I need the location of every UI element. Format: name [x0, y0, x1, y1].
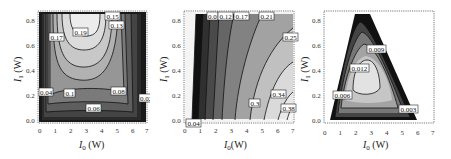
- svg-text:0.009: 0.009: [369, 46, 385, 54]
- svg-text:6: 6: [131, 127, 135, 135]
- svg-text:0.17: 0.17: [51, 34, 64, 42]
- svg-text:0.6: 0.6: [172, 42, 181, 50]
- contour-label-0.12: 0.12: [218, 12, 233, 21]
- y-axis-ticks-3: 0.0 0.2 0.4 0.6 0.8: [312, 17, 321, 125]
- contour-label-0.19: 0.19: [73, 28, 88, 37]
- y-axis-label-1: I1 (W): [12, 57, 25, 83]
- svg-text:0.02: 0.02: [140, 95, 150, 103]
- x-axis-ticks-1: 0 1 2 3 4 5 6 7: [38, 127, 149, 135]
- svg-text:0.4: 0.4: [26, 67, 35, 75]
- svg-text:0.2: 0.2: [312, 92, 321, 100]
- svg-text:0.21: 0.21: [261, 13, 274, 21]
- svg-text:3: 3: [230, 127, 234, 135]
- svg-text:0.17: 0.17: [236, 13, 249, 21]
- svg-text:0.15: 0.15: [107, 13, 120, 21]
- svg-text:0.06: 0.06: [88, 105, 101, 113]
- svg-text:0.0: 0.0: [312, 117, 321, 125]
- svg-text:0.34: 0.34: [273, 91, 286, 99]
- svg-text:2: 2: [69, 127, 73, 135]
- svg-text:4: 4: [385, 129, 389, 137]
- svg-text:6: 6: [416, 129, 420, 137]
- y-axis-label-3: I1 (W): [300, 57, 312, 83]
- svg-text:0.08: 0.08: [113, 88, 126, 96]
- svg-text:0.8: 0.8: [172, 17, 181, 25]
- svg-text:0.4: 0.4: [312, 67, 321, 75]
- svg-text:3: 3: [370, 129, 374, 137]
- contour-panel-3: 0.009 0.012 0.006 0.003 0.0 0.2 0.4 0.6 …: [300, 0, 451, 159]
- svg-text:0.8: 0.8: [26, 17, 35, 25]
- svg-text:0.006: 0.006: [335, 92, 351, 100]
- contour-label-0.34: 0.34: [271, 90, 286, 99]
- svg-text:0.0: 0.0: [172, 117, 181, 125]
- svg-text:2: 2: [214, 127, 218, 135]
- svg-text:1: 1: [54, 127, 58, 135]
- y-axis-ticks-2: 0.0 0.2 0.4 0.6 0.8: [172, 17, 181, 125]
- svg-text:0.6: 0.6: [26, 42, 35, 50]
- x-axis-label-2: I0(W): [223, 139, 247, 152]
- svg-text:5: 5: [261, 127, 265, 135]
- contour-label-0.13: 0.13: [109, 21, 124, 30]
- contour-label-0.04: 0.04: [39, 88, 53, 97]
- contour-label-0.012: 0.012: [350, 64, 369, 73]
- svg-text:1: 1: [339, 129, 343, 137]
- svg-text:0.25: 0.25: [285, 34, 298, 42]
- x-axis-label-1: I0 (W): [78, 139, 104, 152]
- svg-text:0.0: 0.0: [26, 117, 35, 125]
- x-axis-ticks-2: 0 1 2 3 4 5 6 7: [183, 127, 295, 135]
- svg-text:0.003: 0.003: [401, 106, 417, 114]
- svg-text:0.012: 0.012: [352, 65, 368, 73]
- x-axis-ticks-3: 0 1 2 3 4 5 6 7: [323, 129, 435, 137]
- svg-text:7: 7: [145, 127, 149, 135]
- contour-label-0.02: 0.02: [139, 94, 150, 103]
- svg-text:0.12: 0.12: [220, 13, 233, 21]
- y-axis-label-2: I1 (W): [158, 57, 171, 83]
- contour-label-0.009: 0.009: [367, 45, 386, 54]
- contour-label-0.25: 0.25: [283, 33, 298, 42]
- svg-text:0.38: 0.38: [283, 105, 296, 113]
- svg-text:0.0: 0.0: [208, 13, 217, 21]
- svg-text:0: 0: [183, 127, 187, 135]
- contour-label-0.17: 0.17: [234, 12, 249, 21]
- svg-text:1: 1: [199, 127, 203, 135]
- svg-text:0.3: 0.3: [251, 100, 260, 108]
- contour-panel-2: 0.0 0.12 0.17 0.21 0.25 0.3 0.34 0.38 0.…: [150, 0, 300, 159]
- svg-text:7: 7: [291, 127, 295, 135]
- svg-text:3: 3: [85, 127, 89, 135]
- svg-text:5: 5: [401, 129, 405, 137]
- contour-label-0.08: 0.08: [111, 87, 126, 96]
- contour-label-0.003: 0.003: [399, 105, 418, 114]
- svg-text:4: 4: [245, 127, 249, 135]
- contour-label-0.0: 0.0: [207, 12, 218, 21]
- contour-label-0.15: 0.15: [105, 12, 120, 21]
- contour-label-0.17: 0.17: [49, 33, 64, 42]
- svg-text:4: 4: [100, 127, 104, 135]
- x-axis-label-3: I0 (W): [362, 139, 388, 152]
- svg-text:2: 2: [354, 129, 358, 137]
- svg-text:0.13: 0.13: [111, 22, 124, 30]
- svg-text:0.2: 0.2: [26, 92, 35, 100]
- svg-text:6: 6: [276, 127, 280, 135]
- contour-plot-1: 0.15 0.13 0.19 0.17 0.04 0.1 0.08 0.02 0…: [0, 0, 150, 159]
- contour-plot-3: 0.009 0.012 0.006 0.003 0.0 0.2 0.4 0.6 …: [300, 0, 451, 159]
- contour-label-0.38: 0.38: [281, 104, 296, 113]
- svg-text:0.2: 0.2: [172, 92, 181, 100]
- svg-text:0: 0: [323, 129, 327, 137]
- contour-plot-2: 0.0 0.12 0.17 0.21 0.25 0.3 0.34 0.38 0.…: [150, 0, 300, 159]
- svg-text:0.1: 0.1: [66, 90, 75, 98]
- contour-panel-1: 0.15 0.13 0.19 0.17 0.04 0.1 0.08 0.02 0…: [0, 0, 150, 159]
- svg-text:0.8: 0.8: [312, 17, 321, 25]
- contour-label-0.06: 0.06: [86, 104, 101, 113]
- contour-label-0.1: 0.1: [64, 89, 75, 98]
- svg-text:0: 0: [38, 127, 42, 135]
- svg-text:0.19: 0.19: [75, 29, 88, 37]
- svg-text:7: 7: [431, 129, 435, 137]
- contour-label-0.3: 0.3: [249, 99, 260, 108]
- y-axis-ticks-1: 0.0 0.2 0.4 0.6 0.8: [26, 17, 35, 125]
- contour-label-0.21: 0.21: [259, 12, 274, 21]
- svg-text:0.4: 0.4: [172, 67, 181, 75]
- contour-label-0.006: 0.006: [333, 91, 352, 100]
- svg-text:0.6: 0.6: [312, 42, 321, 50]
- svg-text:0.04: 0.04: [40, 89, 53, 97]
- svg-text:5: 5: [116, 127, 120, 135]
